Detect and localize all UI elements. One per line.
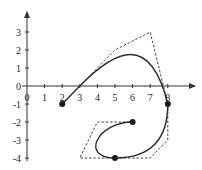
data-point [130,119,136,125]
data-point [59,101,65,107]
x-tick-label: 7 [148,92,153,103]
y-tick-label: 1 [16,63,21,74]
data-point [165,101,171,107]
control-polygon [80,32,168,158]
x-tick-label: 3 [77,92,82,103]
y-tick-label: -1 [13,99,21,110]
x-tick-label: 6 [130,92,135,103]
marked-points [59,101,171,161]
spline-curve [62,55,168,159]
y-tick-label: 2 [16,45,21,56]
y-tick-label: -4 [13,153,21,164]
y-tick-label: 3 [16,27,21,38]
x-tick-label: 4 [95,92,100,103]
y-tick-label: -2 [13,117,21,128]
x-tick-label: 0 [25,92,30,103]
x-tick-label: 5 [113,92,118,103]
bezier-spline-figure: 012345678 3210-1-2-3-4 [0,0,202,170]
axes: 012345678 3210-1-2-3-4 [13,12,195,164]
data-point [112,155,118,161]
y-tick-label: 0 [16,81,21,92]
y-tick-label: -3 [13,135,21,146]
x-ticks: 012345678 [25,84,171,103]
x-tick-label: 1 [42,92,47,103]
